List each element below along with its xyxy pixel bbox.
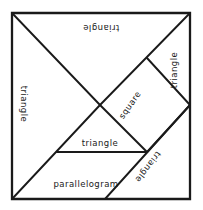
label-triangle-center: triangle — [82, 139, 118, 148]
tangram-diagram: triangle triangle triangle square triang… — [0, 0, 203, 210]
label-triangle-right: triangle — [170, 52, 179, 88]
label-parallelogram: parallelogram — [53, 180, 118, 189]
label-triangle-left: triangle — [20, 86, 29, 122]
label-triangle-top: triangle — [83, 24, 119, 33]
